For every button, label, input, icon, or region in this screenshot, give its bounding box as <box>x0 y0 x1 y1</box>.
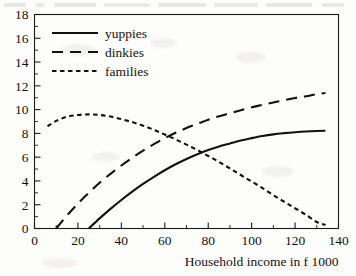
axis-frame <box>35 15 339 229</box>
legend-label-families: families <box>105 64 149 79</box>
y-axis-tick-label: 16 <box>15 31 29 46</box>
x-axis-tick-label: 0 <box>31 233 38 248</box>
series-line-families <box>48 114 326 225</box>
x-axis-tick-label: 120 <box>285 233 306 248</box>
series-line-yuppies <box>89 131 326 229</box>
legend: yuppiesdinkiesfamilies <box>52 26 149 79</box>
y-axis-tick-label: 12 <box>15 79 29 94</box>
y-axis-tick-label: 6 <box>22 150 29 165</box>
x-axis-tick-label: 60 <box>158 233 172 248</box>
legend-label-yuppies: yuppies <box>105 26 147 41</box>
y-axis-tick-label: 14 <box>15 55 29 70</box>
series-line-dinkies <box>56 93 325 229</box>
y-axis-tick-label: 4 <box>22 174 29 189</box>
y-axis-tick-label: 10 <box>15 102 29 117</box>
x-axis-tick-label: 80 <box>201 233 215 248</box>
y-axis-tick-label: 8 <box>22 126 29 141</box>
x-axis-tick-label: 100 <box>242 233 263 248</box>
y-axis-tick-label: 2 <box>22 198 29 213</box>
y-axis-tick-label: 0 <box>22 221 29 236</box>
line-chart-figure: 020406080100120140024681012141618Househo… <box>0 0 356 276</box>
plot-area: 020406080100120140024681012141618Househo… <box>0 0 356 276</box>
x-axis-tick-label: 20 <box>71 233 85 248</box>
legend-label-dinkies: dinkies <box>105 45 144 60</box>
x-axis-tick-label: 40 <box>115 233 129 248</box>
x-axis-tick-label: 140 <box>328 233 349 248</box>
y-axis-tick-label: 18 <box>15 7 29 22</box>
x-axis-title: Household income in f 1000 <box>185 254 339 269</box>
